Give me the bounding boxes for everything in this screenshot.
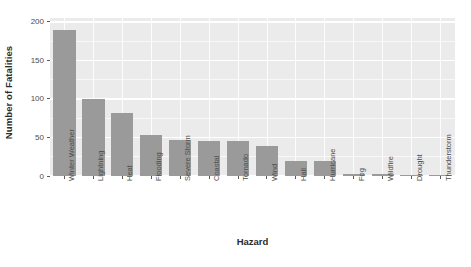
x-axis-tick-mark	[353, 176, 354, 179]
gridline-vertical	[324, 18, 325, 176]
gridline-vertical	[382, 18, 383, 176]
x-axis-tick-mark	[122, 176, 123, 179]
y-axis-tick: 150	[31, 55, 50, 65]
y-axis-tick-label: 200	[31, 17, 47, 26]
x-axis-tick-label: Hurricane	[328, 148, 337, 181]
x-axis-tick-mark	[440, 176, 441, 179]
x-axis-tick-mark	[209, 176, 210, 179]
y-axis-tick-label: 0	[40, 172, 47, 181]
x-axis-tick-label: Winter Weather	[67, 129, 76, 181]
gridline-horizontal-minor	[50, 41, 455, 42]
x-axis-tick-label: Thunderstorm	[444, 134, 453, 181]
x-axis-tick-mark	[324, 176, 325, 179]
x-axis-tick-mark	[93, 176, 94, 179]
y-axis-title: Number of Fatalities	[0, 0, 18, 184]
x-axis-tick-mark	[411, 176, 412, 179]
y-axis-tick-label: 50	[35, 133, 47, 142]
y-axis-tick: 100	[31, 94, 50, 104]
plot-panel	[50, 18, 455, 176]
gridline-vertical	[295, 18, 296, 176]
gridline-horizontal-major	[50, 60, 455, 61]
x-axis-tick-label: Fog	[357, 168, 366, 181]
gridline-horizontal-major	[50, 98, 455, 99]
x-axis-tick-label: Flooding	[154, 152, 163, 181]
x-axis-tick-label: Wildfire	[386, 156, 395, 181]
gridline-horizontal-major	[50, 21, 455, 22]
x-axis-tick-label: Heat	[125, 165, 134, 181]
gridline-horizontal-minor	[50, 79, 455, 80]
x-axis-tick-mark	[180, 176, 181, 179]
y-axis-title-label: Number of Fatalities	[4, 45, 15, 138]
y-axis-tick: 200	[31, 17, 50, 27]
x-axis-tick-mark	[64, 176, 65, 179]
x-axis-title: Hazard	[50, 236, 455, 247]
gridline-vertical	[353, 18, 354, 176]
gridline-vertical	[411, 18, 412, 176]
y-axis-tick: 50	[35, 132, 50, 142]
bar-chart: Number of Fatalities 050100150200 Winter…	[0, 0, 471, 267]
x-axis-tick-mark	[151, 176, 152, 179]
x-axis-tick-label: Lightning	[96, 151, 105, 181]
y-axis: 050100150200	[18, 18, 50, 176]
x-axis-tick-label: Wind	[270, 164, 279, 181]
x-axis-tick-mark	[382, 176, 383, 179]
x-axis-tick-label: Hail	[299, 168, 308, 181]
y-axis-tick-label: 150	[31, 56, 47, 65]
x-axis-tick-label: Coastal	[212, 156, 221, 181]
gridline-vertical	[440, 18, 441, 176]
x-axis-tick-mark	[295, 176, 296, 179]
y-axis-tick-label: 100	[31, 94, 47, 103]
x-axis-tick-label: Tornado	[241, 154, 250, 181]
x-axis-tick-mark	[238, 176, 239, 179]
y-axis-tick: 0	[40, 171, 50, 181]
x-axis-tick-label: Drought	[415, 154, 424, 181]
x-axis-tick-mark	[266, 176, 267, 179]
x-axis-tick-label: Severe Storm	[183, 135, 192, 181]
